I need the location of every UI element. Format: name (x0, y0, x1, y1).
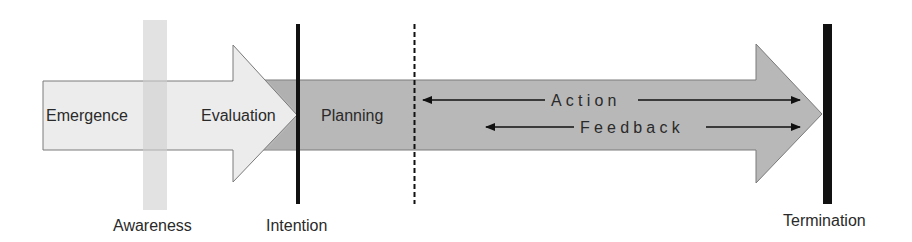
flow-label-action: Action (551, 93, 621, 109)
milestone-label-awareness: Awareness (113, 218, 192, 234)
phase-label-emergence: Emergence (46, 108, 128, 124)
diagram-canvas: Emergence Evaluation Planning Action Fee… (0, 0, 912, 242)
awareness-band (143, 20, 167, 210)
flow-label-feedback: Feedback (580, 120, 684, 136)
diagram-svg (0, 0, 912, 242)
milestone-label-termination: Termination (783, 213, 866, 229)
termination-line (823, 24, 832, 204)
milestone-label-intention: Intention (266, 218, 327, 234)
intention-line (296, 24, 300, 204)
phase-label-evaluation: Evaluation (201, 108, 276, 124)
phase-label-planning: Planning (321, 108, 383, 124)
